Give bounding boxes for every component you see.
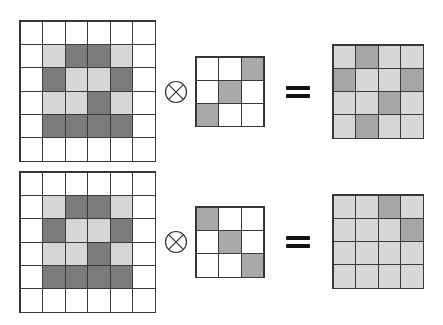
output-cell: [400, 68, 424, 92]
input-cell: [42, 91, 66, 115]
input-cell: [110, 44, 134, 68]
input-cell: [65, 172, 89, 196]
input-cell: [110, 137, 134, 161]
input-cell: [110, 91, 134, 115]
kernel-cell: [218, 207, 242, 231]
output-grid-bottom: [332, 194, 424, 289]
output-cell: [333, 218, 357, 242]
input-cell: [20, 67, 44, 91]
input-cell: [20, 265, 44, 289]
kernel-grid-top: [195, 56, 265, 127]
kernel-cell: [218, 80, 242, 104]
input-cell: [110, 172, 134, 196]
input-cell: [42, 21, 66, 45]
input-cell: [42, 137, 66, 161]
input-grid-bottom: [19, 171, 156, 313]
output-cell: [378, 264, 402, 288]
output-grid-top: [332, 44, 424, 139]
kernel-cell: [241, 230, 265, 254]
output-cell: [378, 195, 402, 219]
input-cell: [132, 67, 156, 91]
output-cell: [400, 241, 424, 265]
input-cell: [42, 218, 66, 242]
input-cell: [65, 265, 89, 289]
input-cell: [132, 21, 156, 45]
output-cell: [355, 68, 379, 92]
input-cell: [87, 265, 111, 289]
output-cell: [355, 218, 379, 242]
input-cell: [132, 288, 156, 312]
input-cell: [20, 242, 44, 266]
kernel-cell: [241, 57, 265, 81]
equals-icon: [286, 236, 310, 248]
input-cell: [65, 44, 89, 68]
input-cell: [65, 218, 89, 242]
output-cell: [400, 45, 424, 69]
output-cell: [378, 91, 402, 115]
input-cell: [42, 114, 66, 138]
convolution-operator-icon: [164, 80, 188, 104]
input-cell: [65, 242, 89, 266]
output-cell: [333, 68, 357, 92]
input-cell: [65, 114, 89, 138]
input-cell: [20, 44, 44, 68]
output-cell: [355, 114, 379, 138]
input-cell: [110, 21, 134, 45]
kernel-cell: [218, 57, 242, 81]
input-cell: [65, 21, 89, 45]
output-cell: [378, 218, 402, 242]
output-cell: [378, 114, 402, 138]
output-cell: [355, 264, 379, 288]
output-cell: [378, 68, 402, 92]
input-cell: [110, 242, 134, 266]
input-cell: [20, 21, 44, 45]
input-cell: [110, 67, 134, 91]
kernel-cell: [196, 253, 220, 277]
output-cell: [333, 91, 357, 115]
input-cell: [42, 67, 66, 91]
output-cell: [400, 195, 424, 219]
input-cell: [87, 91, 111, 115]
input-cell: [132, 137, 156, 161]
input-cell: [20, 137, 44, 161]
input-cell: [132, 114, 156, 138]
output-cell: [378, 45, 402, 69]
input-cell: [132, 218, 156, 242]
input-cell: [20, 195, 44, 219]
kernel-cell: [196, 80, 220, 104]
output-cell: [400, 218, 424, 242]
input-cell: [20, 172, 44, 196]
kernel-cell: [241, 253, 265, 277]
input-cell: [87, 67, 111, 91]
input-cell: [20, 114, 44, 138]
input-cell: [87, 242, 111, 266]
kernel-cell: [241, 103, 265, 127]
input-cell: [20, 91, 44, 115]
input-cell: [87, 288, 111, 312]
output-cell: [355, 91, 379, 115]
input-cell: [132, 44, 156, 68]
output-cell: [355, 195, 379, 219]
input-cell: [87, 172, 111, 196]
input-cell: [110, 265, 134, 289]
input-cell: [65, 91, 89, 115]
input-cell: [42, 195, 66, 219]
output-cell: [400, 91, 424, 115]
input-cell: [65, 195, 89, 219]
kernel-cell: [218, 103, 242, 127]
input-cell: [42, 242, 66, 266]
kernel-cell: [241, 207, 265, 231]
input-cell: [87, 218, 111, 242]
input-cell: [87, 44, 111, 68]
input-cell: [110, 288, 134, 312]
output-cell: [355, 241, 379, 265]
input-cell: [87, 195, 111, 219]
input-cell: [132, 91, 156, 115]
input-cell: [42, 288, 66, 312]
input-cell: [87, 137, 111, 161]
input-cell: [132, 265, 156, 289]
kernel-cell: [196, 57, 220, 81]
input-cell: [65, 67, 89, 91]
input-cell: [20, 218, 44, 242]
input-cell: [20, 288, 44, 312]
